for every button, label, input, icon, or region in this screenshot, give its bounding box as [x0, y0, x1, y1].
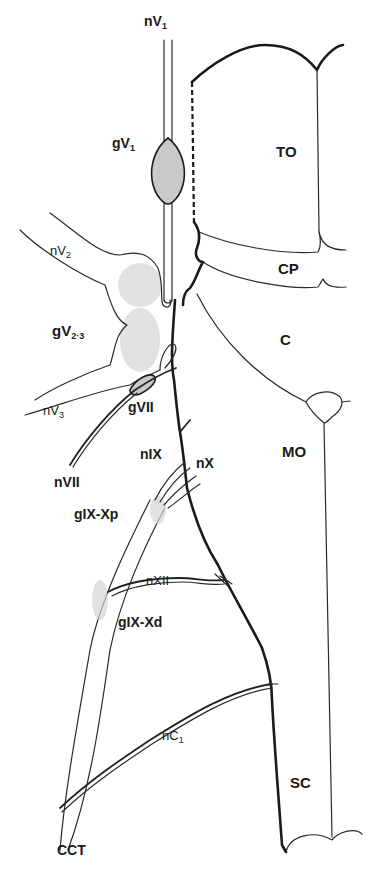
ganglion-gV1: [152, 138, 185, 204]
cp-left-edge: [183, 222, 203, 305]
label-nV2: nV2: [50, 243, 71, 260]
tectum-dome: [192, 45, 343, 82]
label-nV3: nV3: [43, 403, 64, 420]
label-MO: MO: [282, 443, 306, 460]
nerve-nV2-lower: [20, 230, 127, 400]
labels: nV1 gV1 TO nV2 CP gV2·3 C nV3 gVII MO nV…: [43, 13, 311, 858]
nerve-trunk-cct: [60, 496, 166, 850]
label-gV1: gV1: [112, 135, 135, 153]
label-nIX: nIX: [140, 446, 162, 462]
cerebellum-curve: [197, 294, 306, 402]
brain-outline: [183, 45, 362, 852]
label-gIX-Xd: gIX-Xd: [118, 614, 162, 630]
nerve-nIX-nX-rootlets: [155, 420, 200, 508]
midline-spinal: [324, 423, 332, 837]
label-C: C: [280, 331, 291, 348]
label-CP: CP: [278, 260, 299, 277]
ganglion-gV23-group: [20, 213, 176, 415]
to-cp-boundary: [199, 232, 346, 253]
mo-bulb-tick: [342, 401, 350, 402]
ganglion-gIX-Xp-stipple: [150, 496, 166, 524]
brainstem-lateral-edge: [172, 300, 286, 852]
label-SC: SC: [290, 774, 311, 791]
label-gV23: gV2·3: [52, 322, 84, 341]
label-gVII: gVII: [128, 399, 154, 415]
anatomy-diagram: nV1 gV1 TO nV2 CP gV2·3 C nV3 gVII MO nV…: [0, 0, 390, 871]
midline-tectum: [317, 70, 319, 232]
tectum-medial-border: [192, 82, 194, 222]
cp-c-boundary: [203, 262, 346, 288]
label-nV1: nV1: [144, 13, 167, 31]
label-TO: TO: [276, 143, 297, 160]
ganglion-gV23-stipple: [118, 263, 162, 307]
label-nX: nX: [196, 455, 215, 471]
ganglion-gIX-Xd-stipple: [92, 580, 108, 620]
label-nC1: nC1: [162, 728, 184, 745]
spinal-scallop: [286, 831, 362, 852]
mo-bulb: [306, 392, 342, 423]
label-gIX-Xp: gIX-Xp: [74, 506, 118, 522]
nerve-nC1: [60, 684, 278, 812]
label-CCT: CCT: [57, 842, 86, 858]
label-nXII: nXII: [146, 573, 169, 588]
label-nVII: nVII: [54, 474, 80, 490]
